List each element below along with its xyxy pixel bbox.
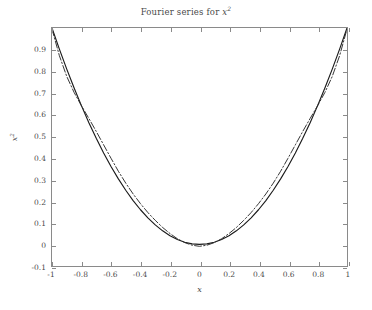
y-tick-mark-5	[52, 159, 56, 160]
x-tick-label-2: -0.6	[103, 270, 117, 279]
y-axis-label-variable: x	[10, 137, 19, 142]
figure-canvas: Fourier series for x2 -1-0.8-0.6-0.4-0.2…	[0, 0, 372, 310]
chart-title-exponent: 2	[227, 5, 231, 12]
y-tick-mark-1	[343, 246, 347, 247]
x-tick-mark-0	[52, 262, 53, 266]
y-tick-mark-10	[343, 50, 347, 51]
y-tick-mark-10	[52, 50, 56, 51]
x-tick-mark-5	[201, 262, 202, 266]
x-tick-mark-5	[201, 28, 202, 32]
y-tick-mark-4	[343, 181, 347, 182]
x-tick-mark-6	[230, 28, 231, 32]
y-tick-mark-9	[343, 72, 347, 73]
x-tick-mark-1	[82, 262, 83, 266]
x-tick-label-5: 0	[197, 270, 202, 279]
y-tick-label-3: 0.2	[34, 197, 46, 206]
x-tick-mark-3	[141, 28, 142, 32]
y-tick-label-2: 0.1	[34, 219, 46, 228]
plot-area	[51, 27, 348, 267]
x-tick-mark-1	[82, 28, 83, 32]
y-axis-label: x2	[9, 117, 20, 157]
y-tick-mark-4	[52, 181, 56, 182]
y-tick-mark-8	[343, 94, 347, 95]
x-tick-mark-7	[260, 28, 261, 32]
y-tick-mark-9	[52, 72, 56, 73]
y-tick-mark-5	[343, 159, 347, 160]
y-tick-mark-2	[343, 224, 347, 225]
x-tick-label-8: 0.6	[283, 270, 295, 279]
x-tick-mark-9	[319, 262, 320, 266]
y-tick-mark-7	[52, 115, 56, 116]
x-tick-mark-0	[52, 28, 53, 32]
x-tick-mark-4	[171, 262, 172, 266]
y-tick-mark-6	[52, 137, 56, 138]
y-tick-mark-0	[52, 268, 56, 269]
y-tick-label-10: 0.9	[34, 44, 46, 53]
x-tick-label-3: -0.4	[133, 270, 147, 279]
x-tick-label-1: -0.8	[73, 270, 87, 279]
x-tick-label-7: 0.4	[253, 270, 265, 279]
chart-title-text: Fourier series for	[141, 7, 223, 17]
y-tick-label-7: 0.6	[34, 110, 46, 119]
y-tick-label-1: 0	[41, 241, 46, 250]
series-line-0	[52, 28, 347, 244]
x-tick-mark-8	[290, 262, 291, 266]
x-tick-label-10: 1	[346, 270, 351, 279]
x-tick-label-9: 0.8	[312, 270, 324, 279]
x-tick-mark-6	[230, 262, 231, 266]
x-tick-mark-4	[171, 28, 172, 32]
y-tick-mark-3	[52, 203, 56, 204]
y-tick-label-5: 0.4	[34, 153, 46, 162]
x-axis-label: x	[51, 285, 348, 294]
x-tick-label-0: -1	[47, 270, 54, 279]
y-tick-label-8: 0.7	[34, 88, 46, 97]
y-tick-label-4: 0.3	[34, 175, 46, 184]
y-tick-mark-6	[343, 137, 347, 138]
y-tick-label-9: 0.8	[34, 66, 46, 75]
x-tick-label-6: 0.2	[223, 270, 235, 279]
x-tick-mark-8	[290, 28, 291, 32]
y-tick-label-0: -0.1	[32, 263, 46, 272]
x-tick-mark-7	[260, 262, 261, 266]
chart-title: Fourier series for x2	[0, 5, 372, 17]
y-axis-label-exponent: 2	[9, 133, 15, 137]
x-tick-mark-2	[111, 262, 112, 266]
y-tick-mark-0	[343, 268, 347, 269]
x-tick-mark-10	[349, 28, 350, 32]
x-tick-mark-3	[141, 262, 142, 266]
x-tick-label-4: -0.2	[163, 270, 177, 279]
y-tick-mark-3	[343, 203, 347, 204]
y-tick-label-6: 0.5	[34, 132, 46, 141]
y-tick-mark-2	[52, 224, 56, 225]
series-group	[52, 28, 347, 246]
y-tick-mark-1	[52, 246, 56, 247]
plot-svg	[52, 28, 347, 266]
x-tick-mark-2	[111, 28, 112, 32]
y-tick-mark-7	[343, 115, 347, 116]
x-tick-mark-9	[319, 28, 320, 32]
y-tick-mark-8	[52, 94, 56, 95]
x-tick-mark-10	[349, 262, 350, 266]
